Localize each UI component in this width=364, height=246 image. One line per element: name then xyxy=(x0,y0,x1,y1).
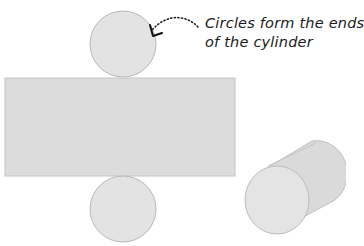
top-circle xyxy=(90,11,156,77)
net-rectangle xyxy=(5,78,235,176)
annotation-label: Circles form the ends of the cylinder xyxy=(205,14,364,52)
annotation-line-2: of the cylinder xyxy=(205,33,364,52)
dotted-arrow xyxy=(152,18,198,30)
annotation-line-1: Circles form the ends xyxy=(205,14,364,33)
bottom-circle xyxy=(90,176,156,242)
cylinder-3d xyxy=(245,141,346,234)
